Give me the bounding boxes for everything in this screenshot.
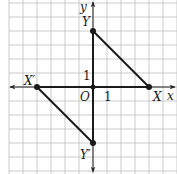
point-label-Y: Y — [82, 15, 91, 29]
origin-label: O — [80, 90, 90, 104]
point-Y-prime — [90, 140, 96, 146]
y-unit-label: 1 — [83, 69, 91, 83]
x-unit-label: 1 — [104, 90, 112, 104]
point-O — [91, 85, 96, 90]
coordinate-grid-figure: y x O 1 1 Y X X′ Y′ — [0, 0, 177, 174]
coordinate-plane: y x O 1 1 Y X X′ Y′ — [0, 0, 177, 174]
point-label-X: X — [152, 90, 162, 104]
point-Y — [90, 28, 96, 34]
y-axis-label: y — [79, 0, 87, 14]
point-label-Y-prime: Y′ — [80, 148, 91, 162]
point-label-X-prime: X′ — [23, 74, 36, 88]
point-X — [146, 84, 152, 90]
x-axis-label: x — [167, 89, 174, 103]
